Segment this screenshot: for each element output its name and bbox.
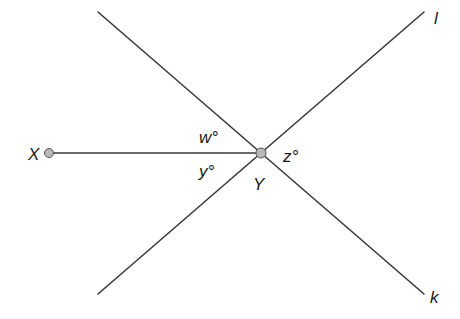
point-y-label: Y: [253, 175, 266, 194]
line-k-label: k: [430, 288, 440, 307]
diagram-canvas: X Y l k w° y° z°: [0, 0, 460, 319]
point-y: [256, 148, 266, 158]
angle-z-label: z°: [282, 147, 299, 166]
point-x: [45, 149, 54, 158]
angle-w-label: w°: [199, 128, 218, 147]
point-x-label: X: [27, 145, 40, 164]
angle-y-label: y°: [198, 162, 215, 181]
line-l-label: l: [434, 9, 439, 28]
